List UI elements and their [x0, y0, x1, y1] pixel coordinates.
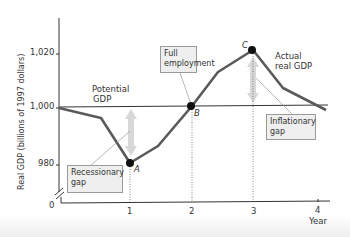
- y-tick-980: 980: [38, 158, 54, 168]
- y-tick-0: 0: [49, 200, 54, 210]
- point-a: [126, 159, 134, 167]
- page-shadow: [0, 215, 350, 237]
- x-axis-label: Year: [309, 216, 327, 226]
- point-b-label: B: [194, 108, 200, 118]
- x-tick-2: 2: [189, 206, 194, 216]
- inflationary-leader: [256, 78, 292, 114]
- point-c: [248, 46, 256, 54]
- inflationary-gap-box: Inflationary gap: [266, 114, 316, 140]
- recessionary-gap-arrow: [125, 109, 137, 156]
- y-tick-1020: 1,020: [30, 47, 54, 57]
- recessionary-leader: [90, 131, 130, 166]
- full-employment-box: Full employment: [160, 46, 197, 73]
- potential-gdp-label: Potential GDP: [92, 84, 129, 104]
- y-tick-1000: 1,000: [30, 101, 54, 111]
- x-tick-1: 1: [127, 206, 132, 216]
- actual-real-gdp-label: Actual real GDP: [275, 51, 312, 71]
- x-tick-3: 3: [251, 206, 256, 216]
- full-employment-leader: [180, 73, 191, 104]
- recessionary-gap-box: Recessionary gap: [67, 165, 123, 193]
- y-axis-label: Real GDP (billions of 1997 dollars): [17, 54, 26, 190]
- point-a-label: A: [134, 164, 140, 174]
- x-tick-4: 4: [315, 205, 320, 215]
- point-c-label: C: [242, 40, 248, 50]
- x-axis: [61, 201, 330, 203]
